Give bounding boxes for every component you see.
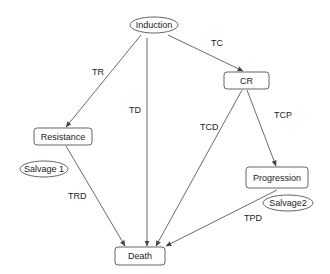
node-label-induction: Induction: [136, 20, 173, 30]
node-label-cr: CR: [240, 76, 253, 86]
node-death: Death: [115, 247, 165, 265]
node-label-salvage2: Salvage2: [269, 198, 307, 208]
node-progression: Progression: [246, 167, 308, 188]
edge-line-tc: [168, 35, 243, 71]
node-label-death: Death: [128, 251, 152, 261]
edge-label-trd: TRD: [68, 191, 87, 201]
edge-td: TD: [129, 38, 147, 246]
edge-line-tcd: [156, 90, 242, 246]
edge-label-tr: TR: [92, 67, 104, 77]
node-label-resistance: Resistance: [41, 132, 86, 142]
edge-trd: TRD: [66, 146, 125, 246]
node-salvage2: Salvage2: [263, 195, 313, 211]
node-resistance: Resistance: [34, 128, 92, 145]
edge-tcd: TCD: [156, 90, 242, 246]
edge-label-tcd: TCD: [200, 122, 219, 132]
edge-label-tcp: TCP: [274, 110, 292, 120]
node-induction: Induction: [130, 17, 178, 33]
edge-label-tpd: TPD: [244, 213, 263, 223]
node-label-progression: Progression: [253, 173, 301, 183]
edges-layer: TRTDTCTCDTCPTRDTPD: [66, 35, 292, 246]
node-cr: CR: [224, 72, 269, 89]
edge-tc: TC: [168, 35, 243, 71]
node-label-salvage1: Salvage 1: [24, 164, 64, 174]
nodes-layer: InductionCRResistanceSalvage 1Progressio…: [20, 17, 313, 265]
edge-line-tcp: [247, 90, 276, 166]
edge-label-tc: TC: [211, 38, 223, 48]
node-salvage1: Salvage 1: [20, 161, 68, 177]
state-diagram: TRTDTCTCDTCPTRDTPD InductionCRResistance…: [0, 0, 330, 274]
edge-tcp: TCP: [247, 90, 292, 166]
edge-label-td: TD: [129, 105, 141, 115]
